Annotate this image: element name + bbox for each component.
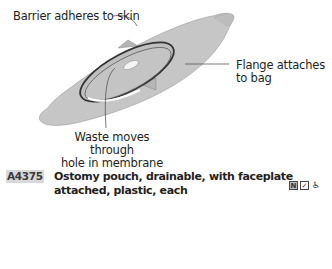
wheelchair-icon: ♿	[311, 181, 321, 190]
waste-callout-line2: hole in membrane	[57, 157, 167, 170]
waste-callout-line1: Waste moves through	[57, 131, 167, 157]
hcpcs-code: A4375	[6, 170, 44, 183]
flange-callout: Flange attaches to bag	[236, 59, 325, 85]
checkbox-icon: ✓	[300, 181, 309, 190]
code-status-icons: N ✓ ♿	[289, 181, 321, 190]
flange-callout-line2: to bag	[236, 72, 325, 85]
waste-callout: Waste moves through hole in membrane	[57, 131, 167, 170]
barrier-callout: Barrier adheres to skin	[13, 10, 140, 23]
code-description: Ostomy pouch, drainable, with faceplate …	[54, 170, 324, 198]
n-icon: N	[289, 181, 298, 190]
